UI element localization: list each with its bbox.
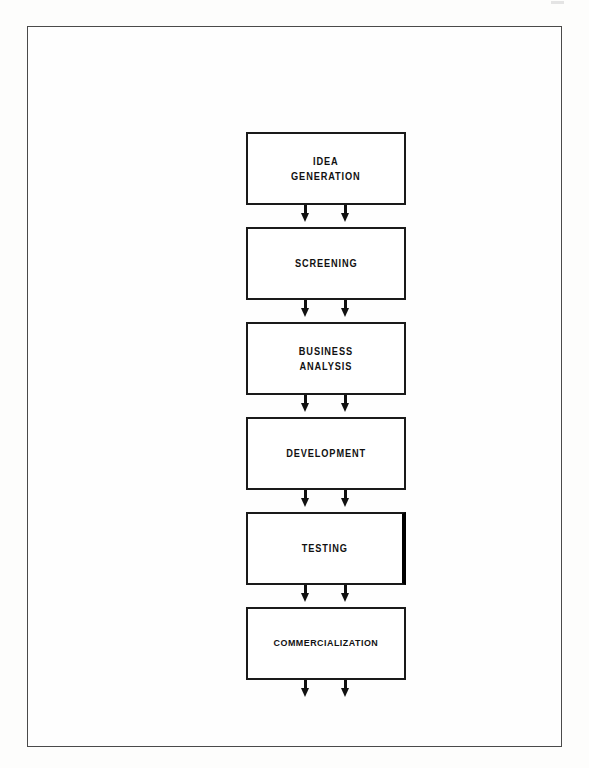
arrow-down-icon — [301, 395, 310, 415]
node-label: IDEA GENERATION — [291, 154, 360, 183]
arrow-down-icon — [341, 395, 350, 415]
node-label: COMMERCIALIZATION — [274, 636, 379, 650]
flowchart: IDEA GENERATION SCREENING — [246, 132, 406, 702]
node-box: DEVELOPMENT — [246, 417, 406, 490]
node-box: SCREENING — [246, 227, 406, 300]
arrow-down-icon — [301, 680, 310, 700]
arrow-down-icon — [301, 585, 310, 605]
flowchart-node-screening: SCREENING — [246, 227, 406, 300]
node-box: COMMERCIALIZATION — [246, 607, 406, 680]
arrow-down-icon — [341, 205, 350, 225]
node-label: TESTING — [302, 541, 348, 556]
arrow-down-icon — [341, 680, 350, 700]
arrow-down-icon — [341, 490, 350, 510]
connector-idea-generation-to-screening — [246, 205, 406, 227]
flowchart-node-commercialization: COMMERCIALIZATION — [246, 607, 406, 680]
arrow-down-icon — [301, 300, 310, 320]
node-box: TESTING — [246, 512, 406, 585]
arrow-down-icon — [301, 490, 310, 510]
flowchart-node-idea-generation: IDEA GENERATION — [246, 132, 406, 205]
connector-development-to-testing — [246, 490, 406, 512]
connector-testing-to-commercialization — [246, 585, 406, 607]
flowchart-node-development: DEVELOPMENT — [246, 417, 406, 490]
flowchart-node-testing: TESTING — [246, 512, 406, 585]
node-label: SCREENING — [295, 256, 358, 271]
scan-artifact-speck — [551, 1, 564, 4]
connector-screening-to-business-analysis — [246, 300, 406, 322]
node-box: BUSINESS ANALYSIS — [246, 322, 406, 395]
arrow-down-icon — [341, 585, 350, 605]
connector-commercialization-terminal — [246, 680, 406, 702]
flowchart-node-business-analysis: BUSINESS ANALYSIS — [246, 322, 406, 395]
node-label: DEVELOPMENT — [286, 446, 366, 461]
page-border-frame: IDEA GENERATION SCREENING — [27, 26, 562, 747]
scanned-page-surface: IDEA GENERATION SCREENING — [0, 0, 589, 768]
node-box: IDEA GENERATION — [246, 132, 406, 205]
arrow-down-icon — [301, 205, 310, 225]
node-label: BUSINESS ANALYSIS — [299, 344, 353, 373]
arrow-down-icon — [341, 300, 350, 320]
connector-business-analysis-to-development — [246, 395, 406, 417]
